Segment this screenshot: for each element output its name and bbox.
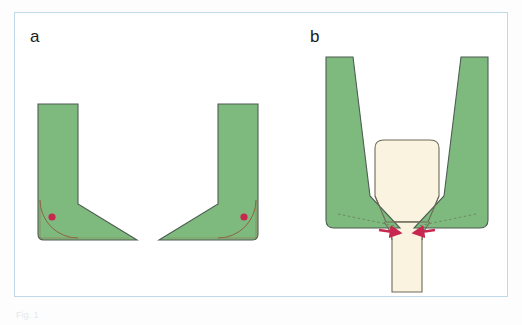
pivot-dot-left bbox=[48, 213, 55, 220]
figure-canvas bbox=[0, 0, 522, 325]
panel-b-group bbox=[326, 57, 488, 292]
panel-label-a: a bbox=[30, 28, 40, 45]
panel-a-right-member bbox=[159, 104, 258, 240]
panel-a-left-member bbox=[38, 104, 137, 240]
panel-label-b: b bbox=[310, 28, 320, 45]
figure-root: a b Fig. 1 bbox=[0, 0, 522, 325]
figure-caption-partial: Fig. 1 bbox=[16, 310, 486, 325]
pivot-dot-right bbox=[240, 213, 247, 220]
cream-upper-body bbox=[375, 140, 439, 222]
panel-a-group bbox=[38, 104, 258, 240]
